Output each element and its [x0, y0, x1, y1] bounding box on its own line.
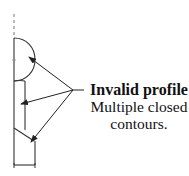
- callout-arrow-inner: [21, 90, 73, 104]
- callout-arrow-arc: [29, 57, 73, 90]
- sketch-diagonal-edge: [14, 128, 34, 141]
- sketch-arc-join: [14, 81, 25, 82]
- annotation-line-1: Multiple closed: [89, 98, 189, 115]
- annotation-line-2: contours.: [89, 115, 189, 132]
- annotation-title: Invalid profile: [89, 81, 189, 98]
- annotation-label: Invalid profile Multiple closed contours…: [89, 81, 189, 132]
- callout-arrow-bottom: [31, 90, 73, 142]
